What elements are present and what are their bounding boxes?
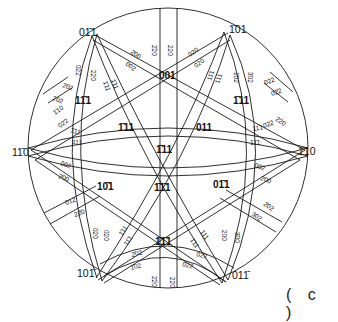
band-label: 1̄10 [52, 104, 65, 116]
pole-label: 1̄01 [229, 23, 247, 35]
pole-label: 10̄1 [97, 181, 114, 192]
band-label: 020 [103, 230, 110, 241]
band-label: 022 [262, 119, 275, 129]
band-label: 111 [72, 138, 83, 146]
band-label: 3̄00 [234, 232, 241, 243]
band-label: 1̄02 [233, 72, 240, 83]
pole-label: 1̄11 [156, 144, 173, 155]
band-label: 220 [90, 70, 97, 81]
pole-label: 011 [196, 122, 213, 133]
band-label: 2̄02 [130, 248, 143, 258]
band-label: 020 [92, 228, 99, 239]
inner-pole-labels: 0011̄1111̄11̄110111̄1110̄11̄1̄101̄11̄1̄1 [75, 70, 250, 247]
pole-label: 01̄1 [213, 179, 230, 190]
band-label: 111 [199, 229, 211, 241]
pole-label: 001 [159, 70, 176, 81]
zone-line [98, 150, 305, 280]
band-label: 2̄00 [129, 48, 142, 60]
band-label: 22̄0 [73, 208, 86, 218]
band-labels: 2̄000022̄202200200200222201̄111̄112̄0220… [52, 45, 288, 288]
band-label: 020 [193, 57, 206, 69]
band-label: 002 [254, 161, 267, 171]
band-label: 022 [263, 76, 276, 86]
band-label: 022 [182, 260, 195, 270]
pole-label: 1̄11 [233, 95, 250, 106]
band-label: 020 [187, 46, 200, 58]
band-label: 2̄00 [58, 172, 71, 182]
band-label: 2̄20 [151, 276, 158, 287]
band-label: 002 [124, 60, 137, 72]
band-label: 002 [60, 159, 73, 169]
band-label: 11̄1 [252, 123, 264, 132]
band-label: 202 [52, 94, 65, 104]
band-label: 022 [75, 65, 82, 76]
band-label: 3̄02 [247, 72, 254, 83]
pole-label: 11̄1 [75, 95, 92, 106]
band-label: 02̄2 [270, 87, 283, 97]
band-label: 2̄00 [260, 174, 273, 184]
pole-label: 1̄1̄1 [154, 182, 171, 193]
band-label: 220 [167, 45, 174, 56]
band-label: 2̄20 [151, 45, 158, 56]
zone-line [31, 150, 226, 282]
pole-label: 1̄1̄1 [155, 236, 172, 247]
band-label: 2̄02 [262, 200, 275, 212]
pole-label: 11̄0 [12, 146, 29, 158]
figure-caption: ( c ) [286, 286, 338, 322]
band-label: 220 [169, 277, 176, 288]
band-label: 2̄02 [62, 81, 75, 91]
pole-label: 01̄1 [79, 26, 97, 38]
band-label: 02̄2 [57, 117, 70, 129]
band-label: 111 [213, 72, 223, 84]
pole-label: 1̄10 [298, 145, 316, 157]
band-label: 200 [221, 230, 228, 241]
band-label: 022 [196, 250, 209, 260]
band-label: 1̄11 [70, 126, 82, 136]
pole-label: 1̄11 [118, 122, 135, 133]
pole-label: 011̄ [232, 269, 251, 281]
band-label: 1̄02 [129, 261, 142, 271]
band-label: 2̄20 [274, 115, 287, 127]
band-label: 11̄1 [250, 139, 261, 146]
band-label: 302 [250, 210, 263, 222]
pole-label: 101̄ [77, 267, 97, 279]
zone-line [93, 40, 300, 160]
band-label: 11̄1 [122, 234, 134, 247]
